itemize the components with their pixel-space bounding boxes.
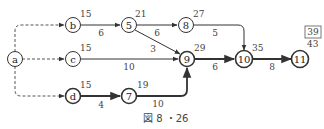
node-9: 9 bbox=[180, 52, 195, 67]
weight-b-5: 6 bbox=[98, 28, 104, 38]
time-7: 19 bbox=[137, 80, 149, 90]
node-11: 11 bbox=[292, 51, 309, 68]
weight-5-8: 6 bbox=[154, 28, 160, 38]
svg-text:a: a bbox=[12, 54, 18, 65]
node-a: a bbox=[8, 52, 23, 67]
svg-text:9: 9 bbox=[184, 54, 190, 65]
edge-a-b bbox=[15, 25, 64, 52]
time-11: 43 bbox=[307, 39, 319, 49]
weight-8-10: 5 bbox=[212, 28, 218, 38]
svg-text:7: 7 bbox=[126, 91, 132, 102]
time-c: 15 bbox=[80, 43, 92, 53]
node-7: 7 bbox=[122, 89, 137, 104]
time-10: 35 bbox=[252, 43, 264, 53]
weight-10-11: 8 bbox=[269, 62, 275, 72]
svg-text:d: d bbox=[70, 91, 77, 102]
weight-c-9: 10 bbox=[123, 62, 135, 72]
svg-text:39: 39 bbox=[307, 27, 319, 37]
time-d: 15 bbox=[80, 80, 92, 90]
time-9: 29 bbox=[194, 43, 206, 53]
svg-text:b: b bbox=[70, 20, 76, 31]
edge-a-d bbox=[15, 66, 64, 96]
weight-d-7: 4 bbox=[98, 100, 104, 110]
node-c: c bbox=[66, 52, 81, 67]
weight-5-9: 3 bbox=[150, 44, 156, 54]
svg-text:11: 11 bbox=[294, 54, 307, 65]
node-d: d bbox=[66, 89, 81, 104]
node-b: b bbox=[66, 18, 81, 33]
time-8: 27 bbox=[193, 9, 205, 19]
svg-text:5: 5 bbox=[126, 20, 132, 31]
figure-caption: 図 8 ・26 bbox=[143, 113, 188, 124]
time-b: 15 bbox=[80, 9, 92, 19]
node-10: 10 bbox=[236, 51, 253, 68]
time-5: 21 bbox=[135, 9, 146, 19]
svg-text:8: 8 bbox=[183, 20, 189, 31]
svg-text:c: c bbox=[70, 54, 76, 65]
node-8: 8 bbox=[179, 18, 194, 33]
network-diagram: 6 6 3 10 4 10 5 6 8 a b c d 5 7 8 9 10 bbox=[0, 0, 324, 129]
node-5: 5 bbox=[122, 18, 137, 33]
svg-text:10: 10 bbox=[238, 54, 251, 65]
weight-9-10: 6 bbox=[212, 62, 218, 72]
weight-7-9: 10 bbox=[152, 99, 164, 109]
boxed-value: 39 bbox=[305, 26, 321, 38]
